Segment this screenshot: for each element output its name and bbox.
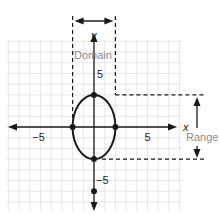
x-tick-label-neg5: −5 [32, 131, 45, 143]
x-axis-arrow-left [8, 124, 17, 131]
data-point [91, 188, 97, 194]
domain-label: Domain [74, 49, 112, 61]
data-point [112, 124, 118, 130]
data-point [70, 124, 76, 130]
range-label: Range [186, 131, 218, 143]
y-axis-label: y [90, 29, 98, 41]
domain-arrowhead-right [104, 18, 113, 25]
range-arrowhead-down [194, 149, 201, 158]
x-tick-label-5: 5 [144, 131, 150, 143]
range-arrowhead-up [194, 97, 201, 106]
domain-arrowhead-left [75, 18, 84, 25]
data-point [91, 92, 97, 98]
data-point [91, 156, 97, 162]
y-tick-label-neg5: −5 [96, 174, 109, 186]
y-tick-label-5: 5 [97, 68, 103, 80]
x-axis-arrow-right [168, 124, 177, 131]
y-axis-arrow-down [91, 202, 98, 211]
ellipse-domain-range-diagram: x y −5 5 5 −5 Domain Range [0, 0, 219, 215]
